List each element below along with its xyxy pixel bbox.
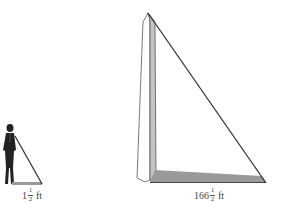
label-numerator: 1 [211, 187, 215, 194]
obelisk [137, 13, 156, 182]
label-numerator: 1 [29, 187, 33, 194]
label-fraction: 1 2 [210, 187, 215, 203]
person-figure [3, 124, 16, 184]
label-whole: 1 [22, 190, 27, 201]
label-whole: 166 [194, 190, 209, 201]
label-fraction: 1 2 [28, 187, 33, 203]
label-unit: ft [218, 190, 224, 201]
obelisk-shadow-length-label: 166 1 2 ft [194, 187, 224, 203]
label-denominator: 2 [29, 196, 33, 203]
label-denominator: 2 [211, 196, 215, 203]
person-shadow-triangle [12, 136, 42, 185]
obelisk-shadow-triangle [148, 13, 266, 183]
person-shadow-length-label: 1 1 2 ft [22, 187, 42, 203]
similar-triangles-diagram [0, 0, 282, 216]
label-unit: ft [36, 190, 42, 201]
